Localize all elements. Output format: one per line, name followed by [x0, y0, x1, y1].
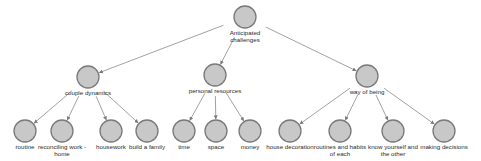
node-label: build a family: [129, 143, 166, 150]
node-circle: [77, 66, 99, 88]
node-root[interactable]: Anticipatedchallenges: [230, 6, 261, 43]
node-circle: [51, 120, 73, 142]
node-label: couple dynamics: [65, 89, 111, 96]
node-label: home: [54, 150, 70, 157]
node-label: personal resources: [189, 87, 242, 94]
edge-being-know: [376, 95, 388, 120]
edge-being-decoration: [300, 88, 350, 124]
node-label: the other: [381, 150, 405, 157]
edge-couple-housework: [96, 96, 106, 120]
node-label: time: [178, 143, 190, 150]
node-decoration[interactable]: house decoration: [266, 120, 314, 150]
node-label: Anticipated: [230, 29, 261, 36]
node-reconciling[interactable]: reconciling work -home: [38, 120, 86, 157]
edge-personal-time: [190, 93, 205, 120]
node-circle: [204, 64, 226, 86]
nodes-layer: Anticipatedchallengescouple dynamicsrout…: [14, 6, 468, 157]
edge-root-being: [266, 27, 356, 71]
edge-being-routines: [345, 95, 357, 120]
node-label: challenges: [230, 36, 260, 43]
node-label: routine: [16, 143, 35, 150]
node-circle: [14, 120, 36, 142]
node-label: way of being: [349, 88, 385, 95]
edge-root-couple: [99, 25, 223, 73]
node-circle: [173, 120, 195, 142]
node-label: routines and habits: [314, 143, 366, 150]
node-label: house decoration: [266, 143, 314, 150]
node-circle: [136, 120, 158, 142]
node-family[interactable]: build a family: [129, 120, 166, 150]
node-personal[interactable]: personal resources: [189, 64, 242, 94]
node-label: know yourself and: [368, 143, 418, 150]
node-label: housework: [96, 143, 127, 150]
node-circle: [356, 65, 378, 87]
node-decisions[interactable]: making decisions: [420, 120, 467, 150]
node-label: making decisions: [420, 143, 467, 150]
node-time[interactable]: time: [173, 120, 195, 150]
node-money[interactable]: money: [239, 120, 261, 150]
node-circle: [205, 120, 227, 142]
node-circle: [382, 120, 404, 142]
edge-couple-reconciling: [67, 96, 79, 120]
node-circle: [433, 120, 455, 142]
node-circle: [100, 120, 122, 142]
node-label: reconciling work -: [38, 143, 86, 150]
node-circle: [239, 120, 261, 142]
node-label: space: [208, 143, 225, 150]
node-label: of each: [330, 150, 351, 157]
node-label: money: [241, 143, 260, 150]
node-circle: [279, 120, 301, 142]
edge-being-decisions: [384, 88, 434, 124]
node-space[interactable]: space: [205, 120, 227, 150]
node-know[interactable]: know yourself andthe other: [368, 120, 418, 157]
diagram-svg: Anticipatedchallengescouple dynamicsrout…: [0, 0, 481, 161]
tree-diagram: Anticipatedchallengescouple dynamicsrout…: [0, 0, 481, 161]
node-circle: [234, 6, 256, 28]
node-circle: [329, 120, 351, 142]
node-housework[interactable]: housework: [96, 120, 127, 150]
node-routines[interactable]: routines and habitsof each: [314, 120, 366, 157]
node-routine[interactable]: routine: [14, 120, 36, 150]
edge-personal-money: [226, 93, 244, 121]
